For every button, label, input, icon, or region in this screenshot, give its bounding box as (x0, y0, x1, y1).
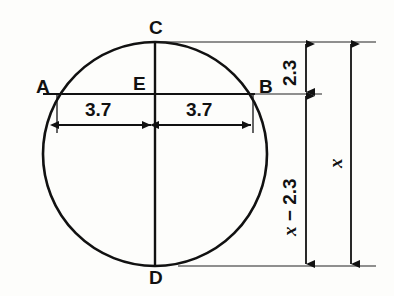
dimension-label-ed-rest: − 2.3 (279, 178, 300, 226)
variable-x-glyph-full: x (325, 159, 346, 169)
dimension-label-ae: 3.7 (85, 100, 111, 119)
vertex-label-b: B (259, 77, 273, 96)
geometry-diagram: A B C D E 3.7 3.7 2.3 x − 2.3 x (0, 0, 394, 296)
vertex-label-c: C (149, 18, 163, 37)
variable-x-glyph: x (279, 227, 300, 237)
vertex-label-e: E (133, 74, 146, 93)
dimension-label-ed: x − 2.3 (280, 178, 299, 236)
dimension-label-ce: 2.3 (280, 60, 299, 86)
dimension-label-cd: x (326, 159, 345, 169)
geometry-canvas (0, 0, 394, 296)
vertex-label-d: D (149, 268, 163, 287)
dimension-label-eb: 3.7 (186, 100, 212, 119)
vertex-label-a: A (36, 77, 50, 96)
